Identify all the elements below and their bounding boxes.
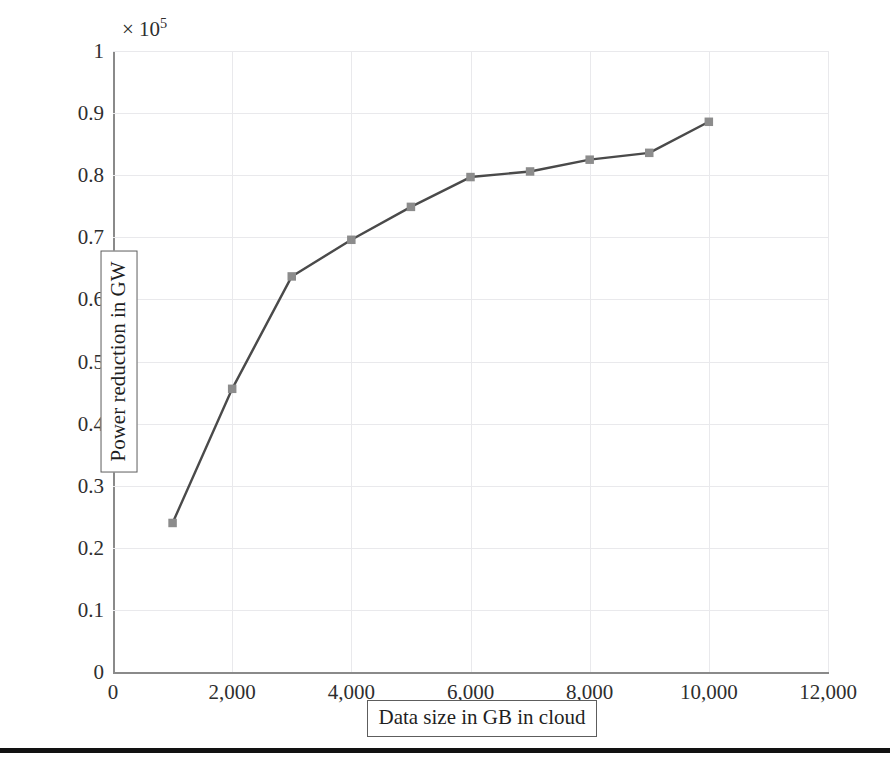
x-axis-title: Data size in GB in cloud bbox=[0, 700, 890, 737]
data-point-marker bbox=[526, 167, 535, 176]
y-axis-multiplier: × 105 bbox=[122, 16, 167, 40]
data-point-marker bbox=[645, 149, 654, 158]
y-axis-title: Power reduction in GW bbox=[8, 51, 230, 672]
bottom-horizontal-rule bbox=[0, 748, 890, 753]
x-axis-title-label: Data size in GB in cloud bbox=[367, 700, 596, 737]
gridline-vertical bbox=[828, 51, 829, 672]
data-point-marker bbox=[347, 236, 356, 245]
data-point-marker bbox=[466, 173, 475, 182]
series-markers bbox=[168, 118, 713, 528]
series-polyline bbox=[173, 122, 709, 523]
y-axis-title-label: Power reduction in GW bbox=[101, 250, 138, 472]
x-axis-line bbox=[113, 672, 829, 674]
data-point-marker bbox=[407, 203, 416, 212]
y-axis-multiplier-exponent: 5 bbox=[160, 15, 167, 31]
data-point-marker bbox=[288, 272, 297, 281]
data-point-marker bbox=[705, 118, 714, 127]
chart-figure: × 105 00.10.20.30.40.50.60.70.80.91 02,0… bbox=[0, 0, 890, 770]
data-point-marker bbox=[585, 155, 594, 164]
y-axis-multiplier-prefix: × 10 bbox=[122, 17, 160, 41]
